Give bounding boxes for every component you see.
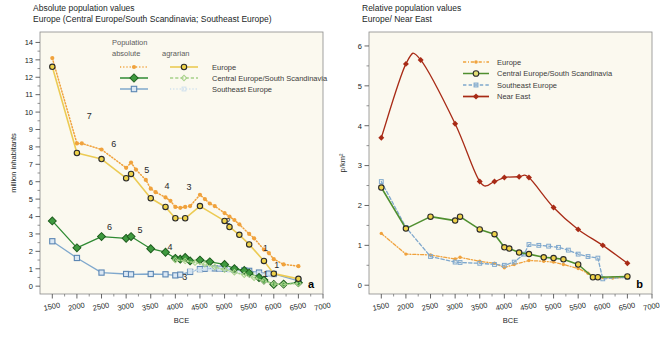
axis-tick-label: 3 [358,161,362,170]
series-marker [50,56,54,60]
series-marker [473,71,479,77]
axis-tick-label: 5 [29,195,33,204]
axis-tick-label: BCE [503,316,518,325]
legend-col-absolute: absolute [112,49,140,58]
data-annotation: 1 [263,269,268,279]
axis-tick-label: 2000 [396,300,414,312]
axis-tick-label: 5500 [240,300,258,312]
series-marker [492,231,497,236]
data-annotation: 1 [274,260,279,270]
legend-entry-label: Southeast Europe [497,81,557,90]
series-marker [178,206,182,210]
axis-tick-label: 0 [358,281,362,290]
axis-tick-label: 4000 [166,300,184,312]
axis-tick-label: 2 [358,201,362,210]
series-marker [526,251,531,256]
axis-tick-label: 7 [29,160,33,169]
axis-tick-label: 1 [358,241,362,250]
series-marker [182,216,187,221]
axis-tick-label: 3 [29,230,33,239]
panel-relative-population: Relative population values Europe/ Near … [333,0,665,344]
legend-entry-label: Near East [497,92,531,101]
panel-a-label: a [308,278,315,290]
series-marker [562,263,565,266]
axis-tick-label: 5 [358,82,362,91]
data-annotation: 4 [164,181,169,191]
data-annotation: 2 [226,216,231,226]
axis-tick-label: 4 [29,212,33,221]
series-marker [296,276,301,281]
axis-tick-label: BCE [174,316,189,325]
series-marker [595,275,600,280]
series-marker [403,226,408,231]
axis-tick-label: 6 [358,42,362,51]
legend-entry-label: Southeast Europe [212,85,272,94]
series-marker [163,272,168,277]
data-annotation: 4 [167,242,172,252]
legend-entry-label: Europe [497,58,521,67]
axis-tick-label: 14 [25,38,33,47]
legend-entry-label: Central Europe/South Scandinavia [212,74,328,83]
series-marker [148,196,153,201]
axis-tick-label: 1500 [372,300,390,312]
series-marker [575,262,580,267]
series-marker [551,255,556,260]
series-marker [188,204,192,208]
axis-tick-label: 11 [25,90,33,99]
data-annotation: 6 [111,139,116,149]
series-marker [516,250,521,255]
series-marker [457,214,462,219]
axis-tick-label: 9 [29,125,33,134]
series-marker [208,201,212,205]
series-marker [99,156,104,161]
series-marker [379,185,384,190]
series-marker [474,60,478,64]
figure-container: Absolute population values Europe (Centr… [0,0,665,344]
legend-header: Population [112,38,147,47]
panel-a-plot: 0123456789101112131415002000250030003500… [0,0,333,344]
axis-tick-label: 4500 [519,300,537,312]
axis-tick-label: 12 [25,73,33,82]
axis-tick-label: 6000 [593,300,611,312]
series-marker [75,141,79,145]
series-marker [507,246,512,251]
series-marker [123,176,128,181]
legend-entry-label: Central Europe/South Scandinavia [497,69,613,78]
series-marker [154,190,158,194]
axis-tick-label: 4000 [495,300,513,312]
series-marker [527,259,530,262]
series-marker [541,255,546,260]
series-marker [232,218,236,222]
axis-tick-label: 7000 [313,300,331,312]
series-marker [261,258,266,263]
axis-tick-label: 0 [29,282,33,291]
series-marker [452,218,457,223]
series-marker [40,32,323,294]
series-marker [561,257,566,262]
series-marker [380,232,383,235]
series-marker [128,272,133,277]
series-marker [144,178,148,182]
axis-tick-label: 6 [29,178,33,187]
series-marker [163,204,168,209]
axis-tick-label: 5000 [544,300,562,312]
series-marker [477,227,482,232]
axis-tick-label: 8 [29,143,33,152]
series-marker [237,222,241,226]
series-marker [428,214,433,219]
legend-entry-label: Europe [212,63,236,72]
axis-tick-label: 2000 [67,300,85,312]
axis-tick-label: 13 [25,56,33,65]
axis-tick-label: 3000 [446,300,464,312]
series-marker [213,204,217,208]
series-marker [181,64,186,69]
data-annotation: 5 [144,165,149,175]
series-marker [458,256,461,259]
series-marker [404,252,407,255]
series-marker [625,274,630,279]
axis-tick-label: 10 [25,108,33,117]
series-marker [148,271,153,276]
series-marker [50,239,55,244]
series-marker [197,203,202,208]
axis-tick-label: 3500 [470,300,488,312]
